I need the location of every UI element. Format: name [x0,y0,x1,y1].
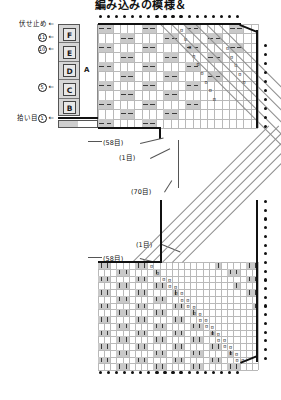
bind-off-dot [264,107,267,110]
section-letter: B [63,101,76,114]
pickup-stitches-label: 拾い目1← [2,114,54,123]
decrease-symbol: ʊ [199,312,202,317]
leader-line-70-diag [164,180,172,192]
bind-off-dot [264,98,267,101]
bind-off-dot [204,371,207,374]
decrease-symbol: ʊ [186,298,189,303]
bind-off-dot [107,15,110,18]
decrease-symbol: ʊ [213,97,216,102]
pickup-row-shaded [59,121,78,127]
decrease-symbol: ʊ [217,332,220,337]
bind-off-dot [264,116,267,119]
pickup-row [58,120,98,128]
decrease-symbol: ʊ [188,45,191,50]
decrease-symbol: ʊ [235,358,238,363]
bind-off-dot [99,15,102,18]
row-marker-10: 10← [2,45,54,54]
decrease-symbol: ʊ [150,264,153,269]
bind-off-dot-row-top [99,15,239,18]
circled-number: 1 [38,114,47,123]
decrease-symbol: ʊ [168,284,171,289]
section-cell-C: C [59,80,79,98]
circled-number: 10 [38,45,47,54]
lower-stitch-chart: ʊʊʊʊʊʊʊʊʊʊʊʊʊʊʊʊʊʊʊʊʊʊʊʊʊʊʊʊ [98,262,258,370]
bind-off-dot [264,252,267,255]
bind-off-dot [163,15,166,18]
section-cell-F: F [59,25,79,43]
callout-upper-1: (1目) [119,152,135,162]
bind-off-dot [155,371,158,374]
bind-off-dot-column-lower [264,200,267,360]
upper-bottom-outline [98,127,160,129]
bind-off-dot [188,15,191,18]
section-group-label: A [84,66,89,74]
section-cell-D: D [59,62,79,80]
decrease-symbol: ʊ [199,318,202,323]
leader-line-1-diag [150,148,170,158]
section-cell-E: E [59,43,79,61]
bind-off-dot [212,371,215,374]
decrease-symbol: ʊ [205,80,208,85]
bind-off-dot [204,15,207,18]
decrease-symbol: ʊ [162,277,165,282]
section-cell-B: B [59,99,79,117]
bind-off-dot [264,80,267,83]
bind-off-dot [264,296,267,299]
decrease-symbol: ʊ [193,311,196,316]
section-letter: F [63,28,76,41]
bind-off-dot [264,209,267,212]
callout-middle-70: (70目) [131,186,151,196]
decrease-symbol: ʊ [211,331,214,336]
bind-off-dot [220,15,223,18]
bind-off-dot [228,15,231,18]
decrease-symbol: ʊ [223,344,226,349]
bind-off-dot [264,53,267,56]
bind-off-dot [264,62,267,65]
bind-off-dot [236,15,239,18]
bind-off-dot [147,371,150,374]
bind-off-dot [196,371,199,374]
section-letter: C [63,83,76,96]
bind-off-dot [99,371,102,374]
row-marker-11: 11← [2,33,54,42]
bind-off-dot [264,226,267,229]
bind-off-dot [123,371,126,374]
decrease-symbol: ʊ [211,325,214,330]
leader-line-58-diag [140,138,164,144]
bind-off-dot [171,15,174,18]
decrease-symbol: ʊ [217,338,220,343]
bind-off-dot [139,371,142,374]
bind-off-dot [147,15,150,18]
bind-off-dot [264,217,267,220]
bind-off-dot [107,371,110,374]
bind-off-dot [264,331,267,334]
bind-off-dot [264,71,267,74]
bind-off-dot [264,322,267,325]
page-title: 編み込みの模様＆ [0,0,281,12]
bind-off-dot [236,371,239,374]
bind-off-dot [139,15,142,18]
bind-off-dot [123,15,126,18]
row-marker-5: 5← [2,83,54,92]
lower-top-outline [98,261,161,263]
bind-off-dot [264,357,267,360]
decrease-symbol: ʊ [223,338,226,343]
lower-step-vertical [160,200,162,262]
leader-line-lower-58 [88,257,102,258]
decrease-symbol: ʊ [209,88,212,93]
bind-off-dot [264,244,267,247]
bind-off-dot [131,371,134,374]
leader-line-58 [88,141,102,142]
decrease-symbol: ʊ [205,324,208,329]
bind-off-dot [179,15,182,18]
bind-off-dot [196,15,199,18]
bind-off-dot [264,261,267,264]
decrease-symbol: ʊ [192,305,195,310]
callout-upper-58: (58目) [103,137,123,147]
section-letter-column: F E D C B [58,24,80,116]
decrease-symbol: ʊ [187,304,190,309]
decrease-symbol: ʊ [181,298,184,303]
bind-off-dot [264,313,267,316]
bind-off-dot-column-upper [264,44,267,128]
bind-off-dot [115,15,118,18]
